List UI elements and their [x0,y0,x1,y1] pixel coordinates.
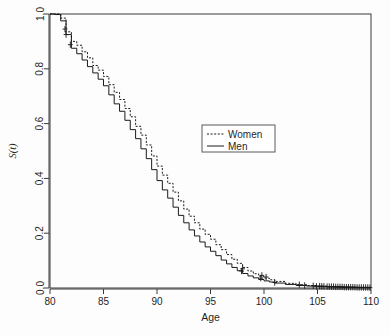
censor-mark-men [359,284,364,290]
x-axis-tick-label: 90 [151,296,163,307]
x-axis-tick-label: 105 [309,296,326,307]
censor-mark-men [64,31,69,37]
y-axis-tick-label: 0.2 [35,226,46,240]
censor-mark-men [368,285,373,291]
y-axis-tick-label: 0.8 [35,61,46,75]
x-axis-tick-label: 100 [256,296,273,307]
censor-mark-men [258,275,263,281]
censor-mark-women [259,272,264,278]
y-axis-tick-label: 0.6 [35,116,46,130]
x-axis-tick-label: 85 [98,296,110,307]
censor-mark-men [272,279,277,285]
x-axis-tick-label: 110 [363,296,379,307]
y-axis-title: S(t) [7,143,19,159]
censor-mark-men [363,284,368,290]
plot-canvas: 808590951001051100.00.20.40.60.81.0AgeS(… [0,0,390,335]
x-axis-tick-label: 95 [205,296,217,307]
censor-mark-men [68,41,73,47]
censor-mark-men [355,284,360,290]
x-axis-title: Age [201,311,220,323]
censor-mark-women [63,26,68,32]
censor-mark-women [297,282,302,288]
y-axis-tick-label: 1.0 [35,7,46,21]
y-axis-tick-label: 0.0 [35,281,46,295]
survival-plot: 808590951001051100.00.20.40.60.81.0AgeS(… [0,0,390,335]
y-axis-tick-label: 0.4 [35,171,46,185]
legend-label-men: Men [228,141,247,152]
legend-label-women: Women [228,129,262,140]
x-axis-tick-label: 80 [44,296,56,307]
